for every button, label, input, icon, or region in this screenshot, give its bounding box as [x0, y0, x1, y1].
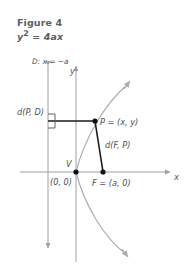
- focus-dot: [100, 169, 105, 174]
- parabola-lower-arrow: [122, 249, 128, 257]
- segment-focus-to-p: [95, 121, 103, 172]
- vertex-label: V: [66, 159, 73, 169]
- directrix-label: D: x = −a: [32, 57, 69, 66]
- focus-label: F = (a, 0): [92, 178, 131, 188]
- x-axis-label: x: [173, 172, 180, 182]
- point-p-label: P = (x, y): [100, 117, 138, 127]
- vertex-dot: [73, 169, 78, 174]
- point-p-dot: [92, 118, 97, 123]
- parabola-upper-arrow: [124, 81, 130, 89]
- distance-p-directrix-label: d(P, D): [17, 107, 44, 117]
- origin-label: (0, 0): [50, 177, 72, 187]
- distance-focus-p-label: d(F, P): [105, 140, 130, 150]
- right-angle-marker: [48, 114, 55, 121]
- figure-container: Figure 4 y2 = 4ax: [0, 0, 193, 275]
- y-axis-label: y: [69, 66, 76, 76]
- parabola-diagram: D: x = −a y x d(P, D) P = (x, y) d(F, P)…: [0, 0, 193, 275]
